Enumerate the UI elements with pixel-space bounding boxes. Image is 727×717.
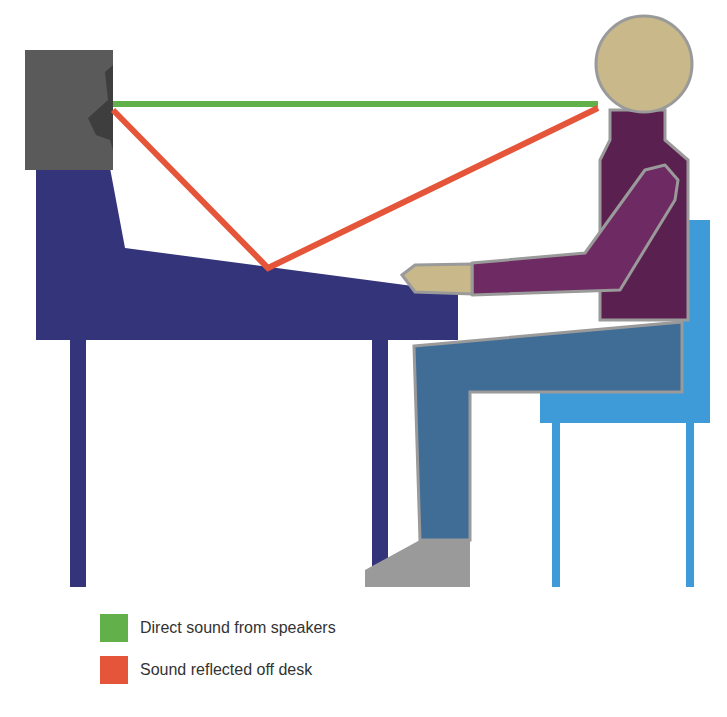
legend-swatch-green: [100, 614, 128, 642]
legend-swatch-red: [100, 656, 128, 684]
chair-leg-back: [686, 420, 694, 587]
chair-leg-front: [552, 420, 560, 587]
speaker: [25, 50, 113, 170]
reflected-sound-path: [113, 108, 598, 268]
desk-leg-left: [70, 335, 86, 587]
listener-legs: [414, 322, 682, 540]
diagram-canvas: [0, 0, 727, 717]
listener-hand: [402, 264, 472, 294]
legend: Direct sound from speakers Sound reflect…: [100, 614, 336, 698]
listener-head: [596, 16, 692, 112]
legend-item-direct: Direct sound from speakers: [100, 614, 336, 642]
legend-label: Direct sound from speakers: [140, 619, 336, 637]
desk-leg-right: [372, 335, 388, 587]
desk-body: [36, 168, 458, 340]
legend-label: Sound reflected off desk: [140, 661, 312, 679]
legend-item-reflected: Sound reflected off desk: [100, 656, 336, 684]
desk: [36, 168, 458, 587]
